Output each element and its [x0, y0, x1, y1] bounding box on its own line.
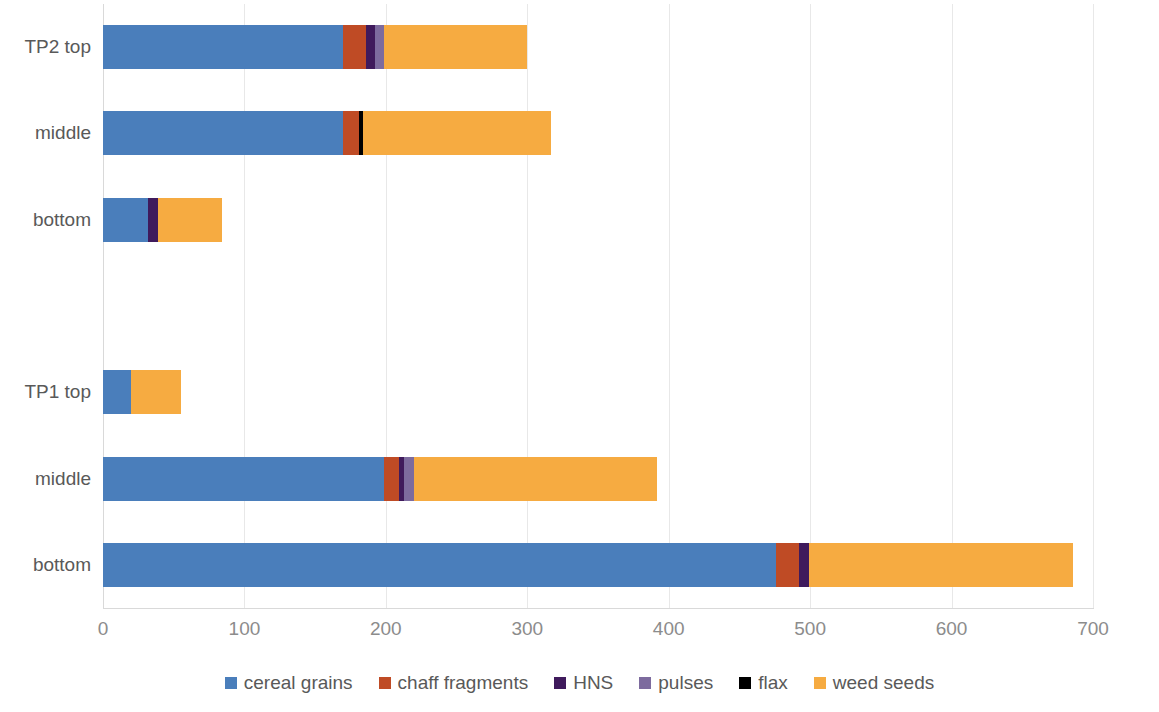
x-tick-label-0: 0: [63, 617, 143, 641]
bar-segment-weed-seeds[interactable]: [414, 457, 657, 501]
bar-row[interactable]: [103, 25, 527, 69]
legend-swatch-icon: [379, 677, 391, 689]
legend-label: cereal grains: [244, 672, 353, 694]
legend-swatch-icon: [554, 677, 566, 689]
plot-area: [103, 4, 1093, 608]
stacked-bar-chart: 0100200300400500600700 TP2 topmiddlebott…: [0, 0, 1159, 712]
legend-label: weed seeds: [833, 672, 934, 694]
legend-item[interactable]: flax: [739, 672, 788, 694]
bar-segment-cereal-grains[interactable]: [103, 457, 384, 501]
category-label: bottom: [0, 554, 91, 576]
category-label: bottom: [0, 209, 91, 231]
bar-segment-pulses[interactable]: [404, 457, 414, 501]
bar-row[interactable]: [103, 370, 181, 414]
bar-row[interactable]: [103, 111, 551, 155]
gridline-300: [527, 4, 528, 608]
legend-label: pulses: [658, 672, 713, 694]
legend-label: HNS: [573, 672, 613, 694]
bar-segment-weed-seeds[interactable]: [809, 543, 1073, 587]
gridline-0: [103, 4, 104, 608]
legend-item[interactable]: chaff fragments: [379, 672, 529, 694]
category-label: middle: [0, 468, 91, 490]
x-tick-label-400: 400: [629, 617, 709, 641]
bar-segment-weed-seeds[interactable]: [363, 111, 551, 155]
bar-row[interactable]: [103, 457, 657, 501]
x-tick-label-700: 700: [1053, 617, 1133, 641]
x-tick-label-300: 300: [487, 617, 567, 641]
gridline-100: [244, 4, 245, 608]
bar-segment-weed-seeds[interactable]: [384, 25, 527, 69]
x-axis-line: [103, 608, 1094, 609]
legend-swatch-icon: [814, 677, 826, 689]
bar-row[interactable]: [103, 543, 1073, 587]
category-label: TP2 top: [0, 36, 91, 58]
gridline-700: [1093, 4, 1094, 608]
legend-label: chaff fragments: [398, 672, 529, 694]
bar-segment-cereal-grains[interactable]: [103, 198, 148, 242]
bar-segment-chaff-fragments[interactable]: [384, 457, 398, 501]
bar-row[interactable]: [103, 198, 222, 242]
gridline-500: [810, 4, 811, 608]
legend-item[interactable]: cereal grains: [225, 672, 353, 694]
bar-segment-chaff-fragments[interactable]: [343, 111, 359, 155]
legend-label: flax: [758, 672, 788, 694]
x-tick-label-600: 600: [912, 617, 992, 641]
legend-swatch-icon: [739, 677, 751, 689]
legend-item[interactable]: pulses: [639, 672, 713, 694]
legend-item[interactable]: HNS: [554, 672, 613, 694]
bar-segment-cereal-grains[interactable]: [103, 25, 343, 69]
legend-item[interactable]: weed seeds: [814, 672, 934, 694]
category-label: TP1 top: [0, 381, 91, 403]
x-tick-label-100: 100: [204, 617, 284, 641]
bar-segment-HNS[interactable]: [148, 198, 158, 242]
gridline-600: [952, 4, 953, 608]
category-label: middle: [0, 122, 91, 144]
x-tick-label-200: 200: [346, 617, 426, 641]
bar-segment-HNS[interactable]: [366, 25, 374, 69]
bar-segment-chaff-fragments[interactable]: [343, 25, 366, 69]
bar-segment-pulses[interactable]: [375, 25, 385, 69]
bar-segment-cereal-grains[interactable]: [103, 370, 131, 414]
chart-legend: cereal grainschaff fragmentsHNSpulsesfla…: [0, 672, 1159, 694]
bar-segment-cereal-grains[interactable]: [103, 111, 343, 155]
legend-swatch-icon: [225, 677, 237, 689]
bar-segment-weed-seeds[interactable]: [158, 198, 222, 242]
gridline-400: [669, 4, 670, 608]
bar-segment-HNS[interactable]: [799, 543, 809, 587]
bar-segment-chaff-fragments[interactable]: [776, 543, 799, 587]
bar-segment-weed-seeds[interactable]: [131, 370, 181, 414]
legend-swatch-icon: [639, 677, 651, 689]
gridline-200: [386, 4, 387, 608]
x-tick-label-500: 500: [770, 617, 850, 641]
bar-segment-cereal-grains[interactable]: [103, 543, 776, 587]
